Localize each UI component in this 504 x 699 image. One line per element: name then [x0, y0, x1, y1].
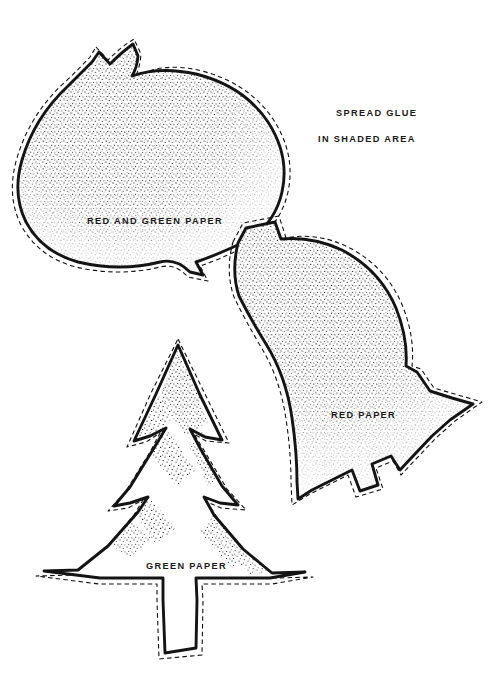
- pattern-artwork: [0, 0, 504, 699]
- label-tree-ornament: GREEN PAPER: [146, 561, 227, 571]
- label-bell-ornament: RED PAPER: [331, 410, 396, 420]
- pattern-christmas-tree: [36, 339, 313, 659]
- label-onion-ornament: RED AND GREEN PAPER: [87, 216, 223, 226]
- pattern-onion-ornament: [0, 0, 504, 699]
- glue-instruction-line-1: SPREAD GLUE: [336, 108, 417, 118]
- pattern-sheet: SPREAD GLUE IN SHADED AREA RED AND GREEN…: [0, 0, 504, 699]
- glue-instruction-line-2: IN SHADED AREA: [318, 134, 416, 144]
